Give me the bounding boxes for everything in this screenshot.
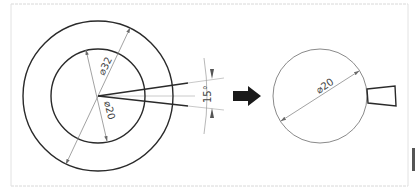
angle-arrow-bottom bbox=[210, 108, 214, 118]
angle-label: 15° bbox=[202, 85, 213, 103]
angle-extension-upper bbox=[188, 78, 224, 83]
technical-drawing: ⌀32 ⌀20 15° ⌀20 bbox=[0, 0, 416, 191]
angle-extension-lower bbox=[188, 106, 224, 110]
inner-diameter-label: ⌀20 bbox=[102, 100, 117, 121]
angle-arrow-top bbox=[210, 69, 214, 79]
right-arrow-icon bbox=[233, 86, 261, 106]
tool-trapezoid bbox=[367, 86, 396, 106]
outer-diameter-label: ⌀32 bbox=[96, 55, 114, 77]
result-diameter-dimension bbox=[281, 71, 359, 121]
left-figure: ⌀32 ⌀20 15° bbox=[23, 21, 224, 171]
scroll-indicator bbox=[412, 148, 415, 171]
right-figure: ⌀20 bbox=[273, 49, 396, 143]
